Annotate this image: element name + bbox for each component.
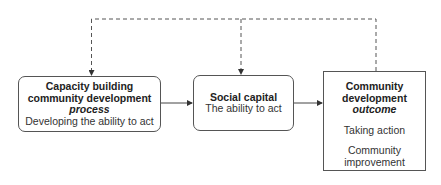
node-item: Taking action (344, 125, 405, 137)
node-community-development-outcome: Community development outcome Taking act… (323, 71, 426, 171)
node-title-line: Capacity building (46, 81, 134, 93)
node-social-capital: Social capital The ability to act (193, 75, 294, 131)
node-title-line: Community (346, 81, 404, 93)
node-subtitle: Developing the ability to act (25, 116, 153, 128)
node-emphasis: outcome (353, 104, 397, 116)
node-emphasis: process (69, 104, 109, 116)
node-item: improvement (344, 157, 405, 169)
dashed-feedback-line (92, 19, 377, 71)
node-item: Community (348, 145, 401, 157)
node-subtitle: The ability to act (205, 103, 281, 115)
node-capacity-building: Capacity building community development … (18, 76, 161, 132)
